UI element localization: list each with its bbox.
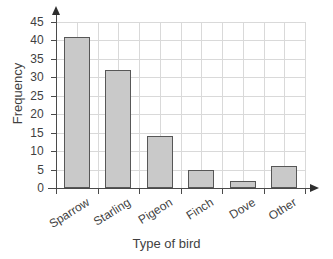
x-tick-mark bbox=[98, 189, 99, 194]
y-tick-label: 5 bbox=[14, 164, 44, 176]
y-tick-mark bbox=[51, 40, 56, 41]
gridline-vertical bbox=[98, 22, 99, 188]
y-tick-label: 35 bbox=[14, 53, 44, 65]
y-tick-mark bbox=[51, 151, 56, 152]
y-tick-mark bbox=[51, 133, 56, 134]
y-tick-label: 15 bbox=[14, 127, 44, 139]
x-tick-mark bbox=[222, 189, 223, 194]
y-tick-mark bbox=[51, 22, 56, 23]
y-tick-label: 10 bbox=[14, 145, 44, 157]
bar bbox=[271, 166, 297, 188]
gridline-vertical bbox=[181, 22, 182, 188]
gridline-vertical bbox=[243, 22, 244, 188]
y-tick-mark bbox=[51, 96, 56, 97]
x-tick-mark bbox=[264, 189, 265, 194]
x-tick-mark bbox=[139, 189, 140, 194]
y-tick-label: 40 bbox=[14, 34, 44, 46]
gridline-vertical bbox=[305, 22, 306, 188]
x-axis-arrow-icon bbox=[310, 184, 319, 192]
gridline-vertical bbox=[264, 22, 265, 188]
gridline-vertical bbox=[201, 22, 202, 188]
x-tick-mark bbox=[181, 189, 182, 194]
y-tick-label: 20 bbox=[14, 108, 44, 120]
gridline-vertical bbox=[284, 22, 285, 188]
y-tick-mark bbox=[51, 114, 56, 115]
y-tick-label: 30 bbox=[14, 71, 44, 83]
gridline-vertical bbox=[139, 22, 140, 188]
bar bbox=[188, 170, 214, 188]
y-tick-mark bbox=[51, 77, 56, 78]
bar bbox=[64, 37, 90, 188]
x-axis-title: Type of bird bbox=[0, 236, 333, 251]
y-tick-label: 45 bbox=[14, 16, 44, 28]
bar bbox=[147, 136, 173, 188]
bar bbox=[105, 70, 131, 188]
plot-area bbox=[56, 22, 305, 188]
gridline-vertical bbox=[222, 22, 223, 188]
x-axis-line bbox=[48, 188, 311, 189]
bar-chart: Frequency Type of bird 05101520253035404… bbox=[0, 0, 333, 259]
y-axis-arrow-icon bbox=[52, 6, 60, 15]
y-tick-mark bbox=[51, 59, 56, 60]
y-tick-label: 25 bbox=[14, 90, 44, 102]
bar bbox=[230, 181, 256, 188]
y-tick-mark bbox=[51, 170, 56, 171]
x-tick-mark bbox=[56, 189, 57, 194]
y-tick-label: 0 bbox=[14, 182, 44, 194]
y-axis-line bbox=[56, 14, 57, 189]
x-tick-mark bbox=[305, 189, 306, 194]
